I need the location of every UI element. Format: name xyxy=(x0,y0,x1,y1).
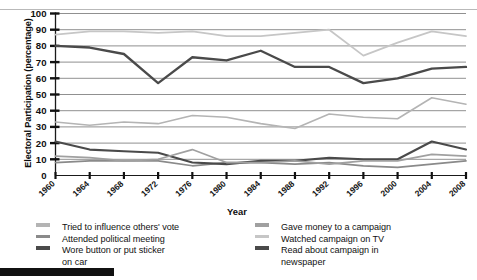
x-tick-label: 1988 xyxy=(276,178,297,198)
plot-area: 0102030405060708090100196019641968197219… xyxy=(0,0,477,205)
legend-swatch-attended-meeting xyxy=(36,235,50,239)
x-tick-label: 1964 xyxy=(71,178,92,198)
x-tick-label: 2000 xyxy=(378,178,399,198)
x-tick-label: 1980 xyxy=(207,178,228,198)
chart-legend: Tried to influence others' vote Attended… xyxy=(0,219,477,269)
series-line xyxy=(56,98,467,129)
legend-item-attended-meeting: Attended political meeting xyxy=(36,231,261,243)
y-tick-label: 40 xyxy=(36,105,47,116)
legend-swatch-wore-button xyxy=(36,246,50,250)
x-tick-label: 1972 xyxy=(139,178,160,198)
legend-column-right: Gave money to a campaign Watched campaig… xyxy=(255,219,477,265)
x-axis-title: Year xyxy=(227,206,247,217)
y-tick-label: 10 xyxy=(36,154,47,165)
y-tick-label: 60 xyxy=(36,73,47,84)
legend-item-gave-money: Gave money to a campaign xyxy=(255,219,477,231)
y-tick-label: 90 xyxy=(36,24,47,35)
x-tick-label: 1996 xyxy=(344,178,365,198)
x-tick-label: 2004 xyxy=(413,178,434,198)
chart-figure: Electoral Participation (percentage) 010… xyxy=(0,0,477,280)
y-tick-label: 20 xyxy=(36,138,47,149)
y-tick-label: 80 xyxy=(36,40,47,51)
legend-item-wore-button: Wore button or put sticker xyxy=(36,242,261,254)
y-tick-label: 0 xyxy=(41,170,46,181)
scan-artifact-bar xyxy=(0,268,114,276)
y-tick-label: 70 xyxy=(36,57,47,68)
legend-swatch-gave-money xyxy=(255,223,269,227)
legend-item-read-newspaper: Read about campaign in xyxy=(255,242,477,254)
legend-label-wore-button-continued: on car xyxy=(62,257,87,269)
series-line xyxy=(56,46,467,83)
chart-canvas: 0102030405060708090100196019641968197219… xyxy=(0,0,477,205)
legend-item-wore-button-line2: on car xyxy=(36,254,261,266)
x-tick-label: 1976 xyxy=(173,178,194,198)
y-tick-label: 30 xyxy=(36,121,47,132)
x-tick-label: 1960 xyxy=(36,178,57,198)
legend-item-watched-tv: Watched campaign on TV xyxy=(255,231,477,243)
x-tick-label: 1992 xyxy=(310,178,331,198)
x-tick-label: 2008 xyxy=(447,178,468,198)
legend-column-left: Tried to influence others' vote Attended… xyxy=(36,219,261,265)
legend-swatch-read-newspaper xyxy=(255,246,269,250)
y-tick-label: 50 xyxy=(36,89,47,100)
x-tick-label: 1968 xyxy=(105,178,126,198)
legend-label-read-newspaper-continued: newspaper xyxy=(281,257,326,269)
legend-item-tried-to-influence: Tried to influence others' vote xyxy=(36,219,261,231)
x-tick-label: 1984 xyxy=(242,178,263,198)
legend-swatch-watched-tv xyxy=(255,235,269,239)
legend-item-read-newspaper-line2: newspaper xyxy=(255,254,477,266)
y-tick-label: 100 xyxy=(30,8,46,19)
legend-swatch-tried-to-influence xyxy=(36,223,50,227)
